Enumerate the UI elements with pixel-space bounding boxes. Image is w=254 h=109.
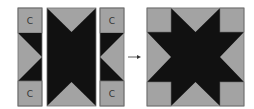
quilt-assembly-diagram: C C C C	[0, 0, 254, 109]
finished-star-block	[147, 8, 244, 106]
center-strip	[47, 8, 96, 106]
label-c-left-top: C	[27, 16, 33, 26]
label-c-right-top: C	[109, 16, 115, 26]
right-arrow-icon	[128, 55, 141, 59]
right-strip: C C	[100, 8, 124, 106]
label-c-left-bottom: C	[27, 89, 33, 99]
left-strip: C C	[18, 8, 42, 106]
label-c-right-bottom: C	[109, 89, 115, 99]
